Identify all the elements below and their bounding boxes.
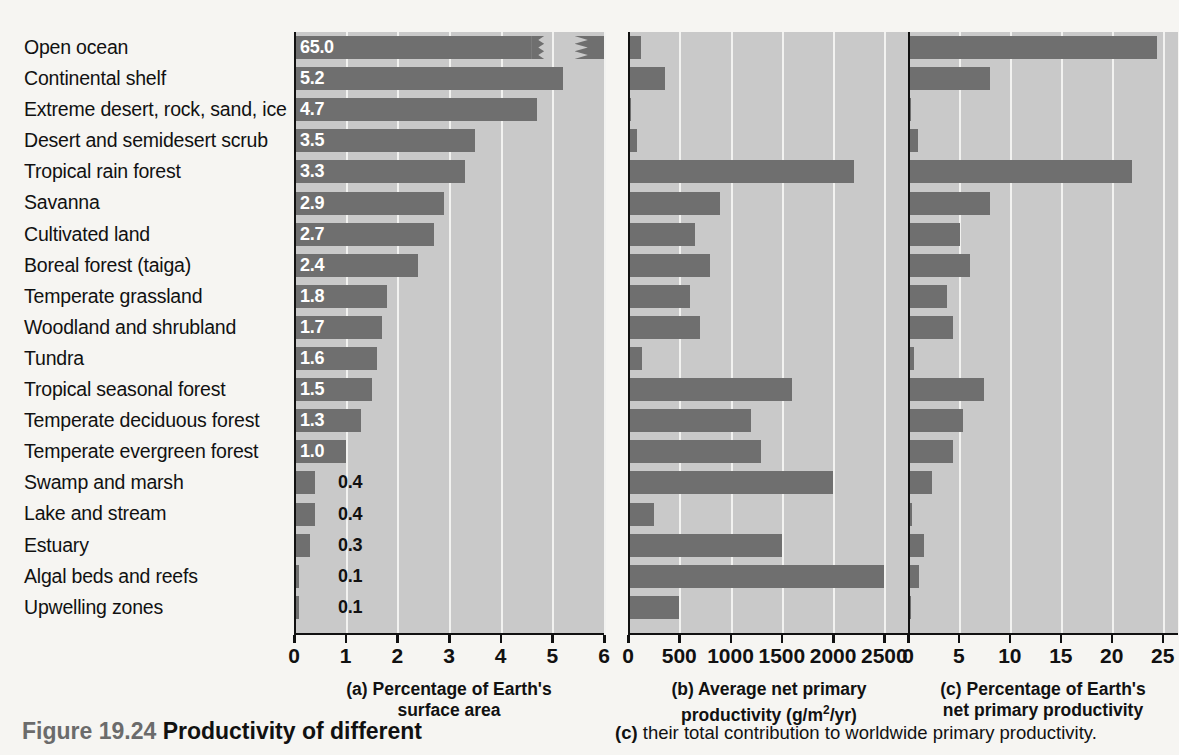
axis-tick bbox=[781, 635, 784, 643]
bar bbox=[908, 316, 953, 339]
bar bbox=[628, 378, 792, 401]
axis-tick-label: 1000 bbox=[707, 644, 754, 668]
panel-prefix: (a) bbox=[346, 679, 372, 699]
bar-value-label: 0.1 bbox=[338, 596, 362, 619]
axis-tick bbox=[678, 635, 681, 643]
bar-row bbox=[628, 405, 910, 436]
bar bbox=[628, 596, 679, 619]
bar bbox=[908, 129, 918, 152]
bar bbox=[908, 440, 953, 463]
category-label-column: Open oceanContinental shelfExtreme deser… bbox=[0, 32, 292, 623]
bar bbox=[908, 503, 912, 526]
bar-value-label: 2.9 bbox=[300, 192, 324, 215]
bar bbox=[628, 409, 751, 432]
axis-tick-label: 1500 bbox=[758, 644, 805, 668]
category-label: Tundra bbox=[0, 343, 292, 374]
category-label: Estuary bbox=[0, 530, 292, 561]
bar bbox=[628, 67, 665, 90]
bar-row: 2.7 bbox=[294, 219, 604, 250]
axis-tick-label: 20 bbox=[1100, 644, 1123, 668]
bar-value-label: 1.6 bbox=[300, 347, 324, 370]
bar-row: 1.7 bbox=[294, 312, 604, 343]
bar-row: 1.5 bbox=[294, 374, 604, 405]
axis-tick-label: 5 bbox=[546, 644, 558, 668]
category-label: Temperate evergreen forest bbox=[0, 436, 292, 467]
bar-row bbox=[628, 63, 910, 94]
bar bbox=[908, 596, 911, 619]
bar-row bbox=[908, 156, 1178, 187]
axis-tick bbox=[1060, 635, 1063, 643]
bar bbox=[628, 192, 720, 215]
bar bbox=[628, 534, 782, 557]
axis-tick bbox=[448, 635, 451, 643]
category-label: Tropical seasonal forest bbox=[0, 374, 292, 405]
bar-value-label: 0.4 bbox=[338, 471, 362, 494]
figure-caption-left: Figure 19.24 Productivity of different bbox=[22, 717, 422, 745]
bar-row bbox=[628, 32, 910, 63]
axis-tick bbox=[1111, 635, 1114, 643]
bar-value-label: 1.7 bbox=[300, 316, 324, 339]
axis-tick bbox=[551, 635, 554, 643]
bar-row bbox=[908, 188, 1178, 219]
axis-tick-label: 0 bbox=[622, 644, 634, 668]
bar-row: 0.4 bbox=[294, 499, 604, 530]
bar-row bbox=[628, 125, 910, 156]
bar bbox=[908, 98, 911, 121]
bar-value-label: 65.0 bbox=[300, 36, 334, 59]
bar bbox=[628, 471, 833, 494]
bar-value-label: 1.0 bbox=[300, 440, 324, 463]
bar-value-label: 4.7 bbox=[300, 98, 324, 121]
figure-caption-right: (c) their total contribution to worldwid… bbox=[615, 721, 1097, 745]
bar-value-label: 3.5 bbox=[300, 129, 324, 152]
bar bbox=[908, 160, 1132, 183]
bar-row: 0.1 bbox=[294, 561, 604, 592]
bar bbox=[628, 565, 884, 588]
bar bbox=[908, 192, 990, 215]
bar-row bbox=[908, 561, 1178, 592]
figure-title: Productivity of different bbox=[163, 718, 422, 744]
bar bbox=[908, 534, 924, 557]
bar bbox=[628, 254, 710, 277]
bar bbox=[628, 316, 700, 339]
bar-value-label: 0.4 bbox=[338, 503, 362, 526]
axis-tick bbox=[1162, 635, 1165, 643]
axis-tick bbox=[958, 635, 961, 643]
bar bbox=[628, 440, 761, 463]
bar-row bbox=[908, 125, 1178, 156]
bar bbox=[628, 285, 690, 308]
bar-row bbox=[908, 32, 1178, 63]
bar bbox=[908, 254, 970, 277]
bar-row bbox=[908, 374, 1178, 405]
bar-row bbox=[908, 281, 1178, 312]
bar-row: 0.4 bbox=[294, 467, 604, 498]
axis-tick-label: 4 bbox=[495, 644, 507, 668]
category-label: Woodland and shrubland bbox=[0, 312, 292, 343]
axis-tick bbox=[832, 635, 835, 643]
axis-tick-label: 0 bbox=[902, 644, 914, 668]
bar-row: 5.2 bbox=[294, 63, 604, 94]
category-label: Temperate grassland bbox=[0, 281, 292, 312]
bar-row bbox=[628, 467, 910, 498]
caption-c-prefix: (c) bbox=[615, 722, 638, 743]
bar-row: 3.3 bbox=[294, 156, 604, 187]
bar-row: 1.6 bbox=[294, 343, 604, 374]
axis-tick bbox=[730, 635, 733, 643]
category-label: Extreme desert, rock, sand, ice bbox=[0, 94, 292, 125]
bar bbox=[628, 503, 654, 526]
bar bbox=[908, 36, 1157, 59]
bar bbox=[628, 98, 631, 121]
bar-row bbox=[628, 592, 910, 623]
bar-row bbox=[908, 343, 1178, 374]
bar-row bbox=[628, 156, 910, 187]
bar bbox=[628, 129, 637, 152]
category-label: Cultivated land bbox=[0, 219, 292, 250]
axis-tick-label: 15 bbox=[1049, 644, 1072, 668]
category-label: Open ocean bbox=[0, 32, 292, 63]
panel-prefix: (b) bbox=[671, 679, 698, 699]
axis-break-right-icon bbox=[575, 36, 604, 59]
bar-row bbox=[908, 312, 1178, 343]
axis-tick-label: 10 bbox=[998, 644, 1021, 668]
category-label: Swamp and marsh bbox=[0, 467, 292, 498]
bar-value-label: 1.8 bbox=[300, 285, 324, 308]
bar-value-label: 3.3 bbox=[300, 160, 324, 183]
